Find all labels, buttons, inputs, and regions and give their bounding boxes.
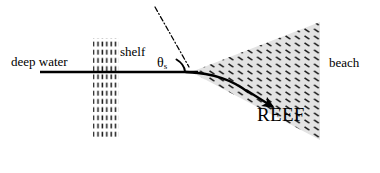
label-shelf: shelf [120,45,145,58]
theta-subscript: s [164,61,168,71]
label-deep-water: deep water [11,55,68,68]
angle-arc [177,60,186,72]
theta-symbol: θ [157,55,164,70]
reef-refraction-diagram: deep water shelf beach REEF θs [0,0,380,173]
reef-wedge [185,15,330,150]
label-reef: REEF [257,105,305,124]
label-incidence-angle-theta-s: θs [157,56,167,71]
shelf-hatching [93,38,119,138]
diagram-canvas [0,0,380,173]
reef-hatching [185,15,330,150]
label-beach: beach [329,56,359,69]
